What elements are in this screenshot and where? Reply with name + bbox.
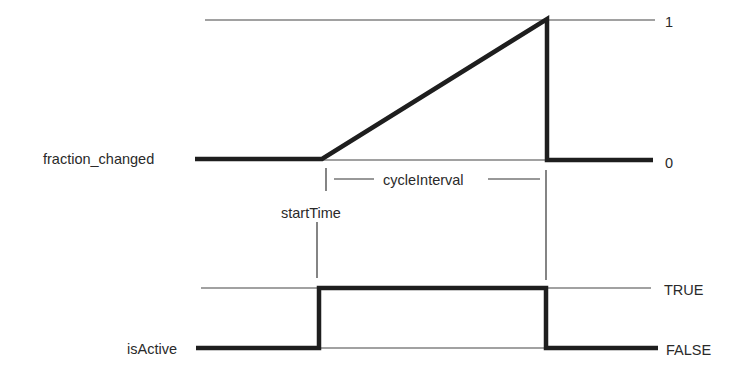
false-label: FALSE xyxy=(666,343,711,358)
cycle-interval-label: cycleInterval xyxy=(383,173,464,188)
true-label: TRUE xyxy=(664,283,703,298)
start-time-label: startTime xyxy=(281,206,341,221)
is-active-label: isActive xyxy=(127,342,177,357)
level-0-label: 0 xyxy=(665,156,673,171)
timing-diagram xyxy=(0,0,753,377)
is-active-waveform xyxy=(196,288,658,348)
level-1-label: 1 xyxy=(665,15,673,30)
fraction-changed-label: fraction_changed xyxy=(43,152,154,167)
fraction-changed-waveform xyxy=(195,19,653,160)
